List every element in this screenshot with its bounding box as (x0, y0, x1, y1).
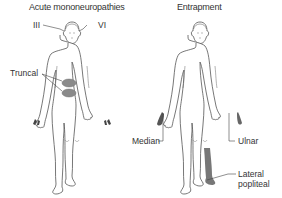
ulnar-shading (237, 112, 242, 125)
truncal-patch-upper (62, 79, 76, 87)
label-lateral-popliteal-line2: popliteal (238, 179, 270, 189)
label-median: Median (132, 136, 160, 146)
figure-acute-mononeuropathies (33, 22, 111, 194)
figure-entrapment (157, 22, 242, 194)
truncal-patch-lower (62, 89, 76, 97)
label-truncal: Truncal (10, 68, 38, 78)
label-cranial-nerve-iii: III (33, 20, 40, 30)
label-lateral-popliteal-line1: Lateral (238, 169, 264, 179)
label-ulnar: Ulnar (238, 136, 258, 146)
label-cranial-nerve-vi: VI (98, 20, 106, 30)
